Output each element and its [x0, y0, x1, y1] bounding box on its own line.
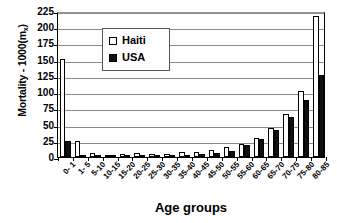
y-axis-tick-label: 225: [22, 7, 54, 17]
bar-usa-75-80: [304, 100, 309, 157]
bar-usa-30-35: [170, 155, 175, 157]
y-axis-tick-labels: 2252001751501251007550250: [22, 12, 54, 158]
legend-entry-haiti: Haiti: [109, 32, 169, 49]
y-axis-tick-label: 75: [22, 104, 54, 114]
bar-usa-25-30: [155, 155, 160, 157]
bar-usa-15-20: [125, 155, 130, 157]
open-square-icon: [109, 37, 117, 45]
bar-usa-10-15: [110, 155, 115, 157]
bar-usa-60-65: [259, 139, 264, 157]
bar-usa-65-70: [274, 130, 279, 157]
y-axis-tick-label: 25: [22, 137, 54, 147]
legend-label-haiti: Haiti: [122, 35, 146, 46]
bar-usa-45-50: [214, 153, 219, 157]
bar-usa-35-40: [185, 155, 190, 157]
chart-legend: Haiti USA: [102, 28, 170, 71]
bar-usa-20-25: [140, 155, 145, 157]
y-axis-tick-label: 50: [22, 121, 54, 131]
filled-square-icon: [109, 54, 117, 62]
legend-entry-usa: USA: [109, 49, 169, 66]
bar-usa-40-45: [199, 154, 204, 157]
bar-usa-80-85: [319, 75, 324, 157]
bars-layer: [58, 13, 324, 157]
y-axis-tick-label: 125: [22, 72, 54, 82]
x-axis-title: Age groups: [57, 200, 325, 215]
y-axis-tick-label: 100: [22, 88, 54, 98]
x-axis-tick-labels: 0- 11- 55-1010-1515-2020-2525-3030-3535-…: [57, 160, 325, 200]
legend-label-usa: USA: [122, 52, 145, 63]
bar-usa-55-60: [244, 145, 249, 157]
y-axis-tick-label: 150: [22, 56, 54, 66]
bar-usa-1-5: [80, 155, 85, 157]
bar-usa-50-55: [229, 151, 234, 157]
bar-usa-5-10: [95, 155, 100, 157]
plot-area: [57, 12, 325, 158]
mortality-bar-chart: Mortality - 1000(mx) 2252001751501251007…: [0, 0, 337, 223]
y-axis-tick-label: 200: [22, 23, 54, 33]
bar-usa-0-1: [65, 141, 70, 157]
bar-usa-70-75: [289, 117, 294, 157]
y-axis-tick-label: 0: [22, 153, 54, 163]
y-axis-tick-label: 175: [22, 39, 54, 49]
